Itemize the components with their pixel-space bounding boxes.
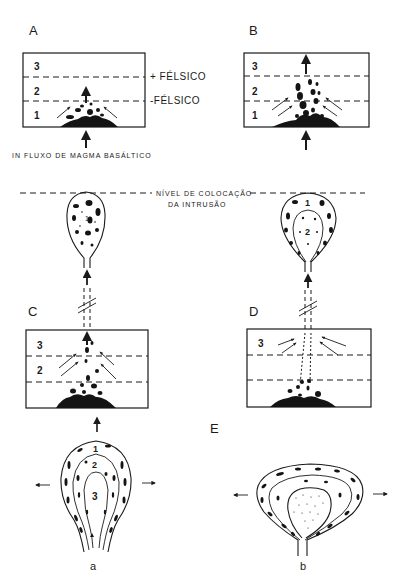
panel-a-letter: A bbox=[29, 23, 38, 38]
pluton-b-label: b bbox=[300, 560, 306, 572]
panel-e-letter: E bbox=[210, 421, 219, 436]
emplacement-label-line1: NÍVEL DE COLOCAÇÃO bbox=[156, 189, 252, 198]
emplacement-label-line2: DA INTRUSÃO bbox=[168, 200, 226, 208]
panel-b-layer-2: 2 bbox=[252, 86, 258, 97]
panel-b-magma-column bbox=[295, 79, 324, 118]
panel-d: 1 2 D 3 bbox=[247, 193, 371, 407]
panel-d-diapir-zone-2: 2 bbox=[305, 227, 310, 237]
basaltic-inflow-caption: IN FLUXO DE MAGMA BASÁLTICO bbox=[12, 151, 152, 159]
pluton-a-zone-1: 1 bbox=[93, 444, 98, 454]
panel-d-magma-blobs bbox=[288, 379, 322, 397]
pluton-b-outer bbox=[257, 464, 363, 556]
pluton-b-xenoliths bbox=[261, 468, 360, 537]
pluton-a-zone-2: 2 bbox=[92, 460, 97, 470]
panel-c-arrow-right-2 bbox=[101, 364, 116, 379]
panel-a-box bbox=[23, 53, 145, 127]
panel-c-layer-2: 2 bbox=[37, 365, 43, 376]
panel-d-arrow-right-1 bbox=[322, 337, 346, 346]
panel-d-break-mark-1 bbox=[299, 301, 317, 311]
panel-d-break-mark-2 bbox=[299, 306, 317, 316]
panel-d-arrow-left-2 bbox=[282, 343, 296, 353]
panel-c-diapir-zone-1: 1 bbox=[85, 215, 89, 222]
panel-b-layer-1: 1 bbox=[252, 110, 258, 121]
magma-diapir-diagram: A 3 2 1 + FÉLSICO -FÉLSICO IN FLUXO DE M… bbox=[0, 0, 407, 585]
panel-b-letter: B bbox=[249, 23, 258, 38]
panel-b-arrow-left-2 bbox=[278, 106, 292, 116]
panel-a-layer-2: 2 bbox=[34, 86, 40, 97]
pluton-a-label: a bbox=[90, 560, 97, 572]
panel-c-magma-column bbox=[70, 341, 103, 395]
panel-e: E bbox=[36, 421, 387, 572]
panel-c-arrow-right-1 bbox=[100, 352, 114, 365]
minus-felsic-label: -FÉLSICO bbox=[150, 94, 200, 106]
panel-c-break-mark-1 bbox=[78, 298, 96, 308]
panel-d-box bbox=[247, 329, 371, 407]
panel-c-layer-3: 3 bbox=[37, 340, 43, 351]
panel-b: B 3 2 1 bbox=[244, 23, 369, 150]
panel-d-diapir-zone-1: 1 bbox=[305, 198, 310, 208]
panel-d-arrow-left-1 bbox=[278, 339, 294, 345]
panel-d-arrow-right-2 bbox=[320, 342, 338, 355]
panel-d-dotted-trail-right bbox=[310, 333, 311, 385]
panel-b-layer-3: 3 bbox=[252, 61, 258, 72]
panel-c-break-mark-2 bbox=[78, 303, 96, 313]
panel-c: 1 C 3 2 bbox=[26, 192, 148, 432]
pluton-b-core-stipple bbox=[293, 494, 323, 528]
inflow-arrow-right bbox=[104, 107, 117, 118]
panel-d-letter: D bbox=[249, 304, 258, 319]
panel-a: A 3 2 1 + FÉLSICO -FÉLSICO IN FLUXO DE M… bbox=[12, 23, 206, 159]
panel-a-layer-1: 1 bbox=[34, 110, 40, 121]
panel-d-layer-3: 3 bbox=[258, 338, 264, 349]
panel-c-letter: C bbox=[28, 304, 37, 319]
panel-b-arrow-left-1 bbox=[272, 98, 288, 110]
panel-a-layer-3: 3 bbox=[34, 61, 40, 72]
panel-b-arrow-right-2 bbox=[323, 106, 337, 116]
panel-e-sub-b: b bbox=[234, 464, 387, 572]
panel-b-arrow-right-1 bbox=[326, 98, 342, 110]
panel-c-xenoliths bbox=[72, 200, 101, 247]
plus-felsic-label: + FÉLSICO bbox=[150, 70, 206, 82]
panel-c-basal-pool bbox=[56, 394, 116, 408]
panel-d-dotted-trail-left bbox=[300, 333, 305, 385]
pluton-b-core bbox=[288, 488, 331, 538]
panel-d-basal-pool bbox=[270, 396, 336, 407]
pluton-a-zone-3: 3 bbox=[92, 491, 98, 502]
panel-e-sub-a: 1 2 3 a bbox=[36, 441, 155, 572]
pluton-b-middle bbox=[269, 475, 352, 540]
